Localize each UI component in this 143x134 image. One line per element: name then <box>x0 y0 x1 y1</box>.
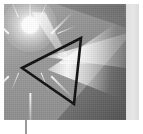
vertical-stem-line <box>25 120 27 134</box>
right-light-band <box>126 4 139 120</box>
figure-root <box>0 0 143 134</box>
prism-photo-panel <box>4 4 126 120</box>
panel-grain-overlay <box>4 4 126 120</box>
